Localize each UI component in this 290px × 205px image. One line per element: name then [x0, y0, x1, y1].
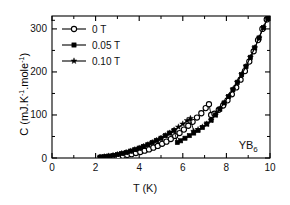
y-tick-label-200: 200 — [30, 66, 47, 77]
x-tick-label-8: 8 — [224, 162, 230, 173]
data-point — [187, 134, 191, 138]
y-axis-label: C (mJ.K-1.mole-1) — [18, 14, 31, 174]
x-tick-label-10: 10 — [264, 162, 276, 173]
legend-marker-filled-square — [72, 43, 76, 47]
data-point — [186, 123, 191, 128]
x-axis-label: T (K) — [0, 182, 290, 194]
x-tick-label-6: 6 — [180, 162, 186, 173]
data-point — [206, 102, 211, 107]
chart-canvas: 024681001002003000 T0.05 T0.10 TYB6 — [0, 0, 290, 205]
y-tick-label-0: 0 — [41, 153, 47, 164]
legend-label-2: 0.10 T — [92, 56, 120, 67]
y-tick-label-100: 100 — [30, 109, 47, 120]
data-point — [194, 115, 199, 120]
data-point — [199, 111, 204, 116]
legend-label-0: 0 T — [92, 24, 106, 35]
data-point — [181, 127, 186, 132]
x-tick-label-4: 4 — [136, 162, 142, 173]
data-point — [179, 139, 183, 143]
legend-label-1: 0.05 T — [92, 40, 120, 51]
figure-specific-heat-yb6: 024681001002003000 T0.05 T0.10 TYB6 T (K… — [0, 0, 290, 205]
x-tick-label-0: 0 — [49, 162, 55, 173]
x-tick-label-2: 2 — [93, 162, 99, 173]
data-point — [183, 136, 187, 140]
y-tick-label-300: 300 — [30, 23, 47, 34]
legend-marker-open-circle — [71, 26, 76, 31]
